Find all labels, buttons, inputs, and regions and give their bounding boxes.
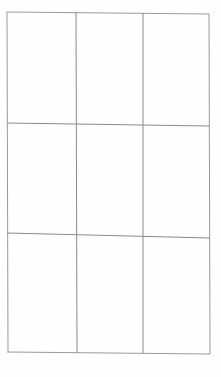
grid-border-top — [7, 12, 209, 14]
grid-border-left — [7, 12, 8, 353]
grid-hline-1 — [7, 123, 209, 126]
grid-border-right — [209, 14, 210, 354]
grid-diagram — [0, 0, 221, 377]
grid-border-bottom — [8, 352, 210, 354]
grid-hline-2 — [7, 233, 210, 238]
grid-vline-1 — [76, 12, 77, 353]
grid-lines — [0, 0, 221, 377]
